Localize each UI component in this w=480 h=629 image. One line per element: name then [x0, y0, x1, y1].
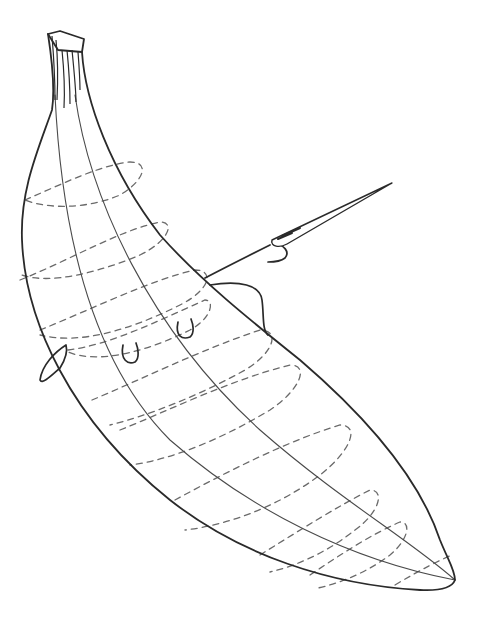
u-stitch	[122, 343, 138, 363]
stem-line	[62, 50, 64, 108]
banana-outline	[22, 34, 455, 590]
cross-section-ring	[40, 270, 207, 338]
stem-line	[67, 50, 70, 104]
thread-main	[205, 245, 270, 278]
u-stitch	[177, 319, 193, 338]
needle-icon	[272, 183, 392, 246]
banana-ridges	[55, 95, 455, 580]
cross-section-ring	[175, 425, 351, 530]
banana-sewing-diagram	[0, 0, 480, 629]
diagram-svg	[0, 0, 480, 629]
cross-section-ring	[20, 222, 168, 280]
cross-section-ring	[68, 300, 210, 357]
stitch-marks	[122, 319, 193, 363]
stem-line	[72, 50, 76, 102]
cross-section-ring	[25, 162, 142, 206]
stem-line	[78, 52, 80, 90]
cross-section-rings	[20, 162, 452, 588]
banana-ridge	[55, 95, 455, 580]
